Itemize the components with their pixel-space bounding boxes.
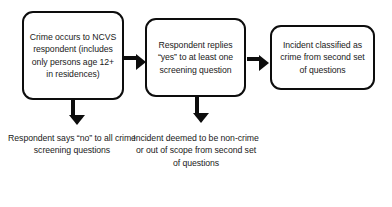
caption-respondent-says-no: Respondent says “no” to all crime screen…	[6, 132, 138, 157]
node-crime-occurs-label: Crime occurs to NCVS respondent (include…	[29, 31, 117, 81]
node-incident-classified-crime-label: Incident classified as crime from second…	[277, 39, 368, 76]
arrow-crime-to-replies-icon	[124, 56, 137, 60]
caption-incident-non-crime: Incident deemed to be non-crime or out o…	[133, 132, 259, 169]
node-incident-classified-crime: Incident classified as crime from second…	[270, 25, 375, 90]
arrow-crime-to-no-icon	[71, 100, 75, 116]
node-respondent-replies-yes: Respondent replies “yes” to at least one…	[145, 18, 246, 97]
node-crime-occurs: Crime occurs to NCVS respondent (include…	[22, 11, 124, 100]
node-respondent-replies-yes-label: Respondent replies “yes” to at least one…	[152, 39, 239, 76]
arrow-replies-to-non-crime-icon	[195, 97, 199, 114]
flowchart-diagram: Crime occurs to NCVS respondent (include…	[0, 0, 392, 207]
arrow-replies-to-classified-icon	[247, 57, 260, 61]
